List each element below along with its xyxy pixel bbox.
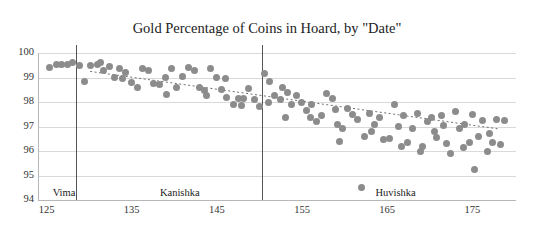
data-point: [440, 122, 447, 129]
x-axis-tick-label: 135: [112, 204, 152, 215]
data-point: [218, 86, 225, 93]
data-point: [371, 121, 378, 128]
data-point: [366, 110, 373, 117]
data-point: [245, 85, 252, 92]
data-point: [469, 111, 476, 118]
data-point: [386, 135, 393, 142]
data-point: [414, 110, 421, 117]
data-point: [460, 144, 467, 151]
y-axis-tick-label: 94: [0, 193, 34, 204]
x-axis-tick-label: 175: [452, 204, 492, 215]
data-point: [329, 95, 336, 102]
data-point: [417, 148, 424, 155]
data-point: [288, 101, 295, 108]
reign-label: Huvishka: [375, 187, 415, 198]
y-axis-tick-label: 96: [0, 144, 34, 155]
data-point: [471, 166, 478, 173]
y-axis-tick-label: 100: [0, 46, 34, 57]
data-point: [230, 101, 237, 108]
data-point: [336, 138, 343, 145]
data-point: [298, 99, 305, 106]
reign-divider: [262, 45, 263, 200]
data-point: [461, 121, 468, 128]
data-point: [431, 128, 438, 135]
data-point: [354, 116, 361, 123]
data-point: [438, 112, 445, 119]
data-point: [308, 101, 315, 108]
data-point: [475, 133, 482, 140]
data-point: [191, 67, 198, 74]
data-point: [489, 139, 496, 146]
data-point: [240, 95, 247, 102]
data-point: [501, 117, 508, 124]
data-point: [493, 116, 500, 123]
data-point: [395, 123, 402, 130]
data-point: [368, 128, 375, 135]
reign-label: Kanishka: [160, 187, 200, 198]
x-axis-tick-label: 165: [367, 204, 407, 215]
data-point: [447, 150, 454, 157]
y-axis-tick-label: 97: [0, 120, 34, 131]
data-point: [266, 78, 273, 85]
data-point: [303, 107, 310, 114]
chart-title: Gold Percentage of Coins in Hoard, by "D…: [0, 20, 534, 37]
data-point: [398, 143, 405, 150]
data-point: [391, 101, 398, 108]
x-axis-tick-label: 145: [197, 204, 237, 215]
data-point: [361, 133, 368, 140]
data-point: [46, 64, 53, 71]
data-point: [400, 112, 407, 119]
x-axis-tick-label: 125: [27, 204, 67, 215]
data-point: [251, 96, 258, 103]
y-axis-tick-label: 98: [0, 95, 34, 106]
data-point: [279, 84, 286, 91]
data-point: [213, 74, 220, 81]
data-point: [284, 89, 291, 96]
data-point: [223, 94, 230, 101]
data-point: [484, 148, 491, 155]
chart-container: Gold Percentage of Coins in Hoard, by "D…: [0, 0, 534, 251]
data-point: [277, 96, 284, 103]
data-point: [265, 99, 272, 106]
data-point: [332, 106, 339, 113]
data-point: [466, 139, 473, 146]
data-point: [443, 140, 450, 147]
data-point: [145, 67, 152, 74]
reign-label: Vima: [53, 187, 76, 198]
data-point: [69, 59, 76, 66]
y-axis-tick-label: 99: [0, 71, 34, 82]
plot-area: VimaKanishkaHuvishka: [38, 53, 516, 201]
x-axis-tick-label: 155: [282, 204, 322, 215]
y-axis-tick-label: 95: [0, 169, 34, 180]
